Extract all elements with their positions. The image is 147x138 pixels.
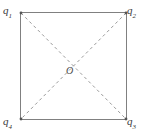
charge-subscript-q4: 4 bbox=[9, 123, 13, 131]
charge-label-q1: q1 bbox=[3, 5, 12, 19]
figure-graphics bbox=[0, 0, 147, 138]
charge-label-q2: q2 bbox=[127, 5, 136, 19]
charge-symbol-q1: q bbox=[3, 4, 9, 16]
origin-label-o: O bbox=[66, 66, 73, 76]
charge-symbol-q3: q bbox=[127, 115, 133, 127]
vertex-marker-q4 bbox=[20, 118, 23, 121]
charge-symbol-q2: q bbox=[127, 4, 133, 16]
charge-label-q4: q4 bbox=[3, 116, 12, 130]
charge-subscript-q3: 3 bbox=[133, 123, 137, 131]
charge-subscript-q1: 1 bbox=[9, 12, 13, 20]
charge-label-q3: q3 bbox=[127, 116, 136, 130]
charge-subscript-q2: 2 bbox=[133, 12, 137, 20]
vertex-marker-q1 bbox=[20, 12, 23, 15]
charge-square-figure: q1 q2 q3 q4 O bbox=[0, 0, 147, 138]
charge-symbol-q4: q bbox=[3, 115, 9, 127]
